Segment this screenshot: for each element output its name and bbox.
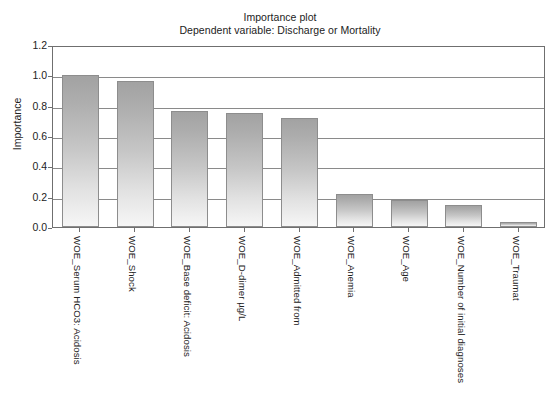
bar xyxy=(281,118,318,227)
y-axis-tick-labels: 0.00.20.40.60.81.01.2 xyxy=(0,0,50,402)
x-axis-tick-mark xyxy=(463,228,464,232)
x-axis-label-text: WOE_Traumat xyxy=(511,236,522,301)
y-axis-tick-label: 1.2 xyxy=(14,39,47,51)
bar xyxy=(117,81,154,227)
bar xyxy=(226,113,263,228)
chart-title: Importance plot xyxy=(0,11,560,24)
x-axis-tick-mark xyxy=(353,228,354,232)
y-axis-tick-label: 0.2 xyxy=(14,191,47,203)
bar xyxy=(500,222,537,227)
y-axis-tick-label: 0.8 xyxy=(14,100,47,112)
x-axis-label-text: WOE_D-dimer µg/L xyxy=(237,236,248,322)
x-axis-tick-mark xyxy=(244,228,245,232)
y-axis-tick-label: 0.0 xyxy=(14,221,47,233)
plot-area xyxy=(52,46,545,228)
x-axis-label-text: WOE_Serum HCO3: Acidosis xyxy=(72,236,83,365)
x-axis-label: WOE_Shock xyxy=(127,236,141,396)
y-axis-tick-label: 0.4 xyxy=(14,160,47,172)
bar xyxy=(171,111,208,227)
x-axis-label-text: WOE_Anemia xyxy=(346,236,357,298)
x-axis-label: WOE_Base deficit: Acidosis xyxy=(182,236,196,396)
x-axis-tick-mark xyxy=(189,228,190,232)
y-axis-tick-label: 1.0 xyxy=(14,69,47,81)
x-axis-label-text: WOE_Age xyxy=(401,236,412,282)
bar xyxy=(62,75,99,227)
x-axis-tick-mark xyxy=(134,228,135,232)
x-axis-label: WOE_Admitted from xyxy=(292,236,306,396)
y-axis-tick-label: 0.6 xyxy=(14,130,47,142)
chart-subtitle: Dependent variable: Discharge or Mortali… xyxy=(0,24,560,37)
x-axis-label: WOE_Number of initial diagnoses xyxy=(456,236,470,396)
bar xyxy=(445,205,482,227)
x-axis-tick-mark xyxy=(408,228,409,232)
x-axis-label-text: WOE_Shock xyxy=(127,236,138,292)
x-axis-label-text: WOE_Base deficit: Acidosis xyxy=(182,236,193,357)
x-axis-label: WOE_D-dimer µg/L xyxy=(237,236,251,396)
x-axis-label: WOE_Age xyxy=(401,236,415,396)
chart-title-block: Importance plot Dependent variable: Disc… xyxy=(0,11,560,37)
x-axis-label: WOE_Serum HCO3: Acidosis xyxy=(72,236,86,396)
gridline xyxy=(53,77,544,78)
y-axis-tick-mark xyxy=(48,228,52,229)
x-axis-label-text: WOE_Number of initial diagnoses xyxy=(456,236,467,383)
x-axis-label-text: WOE_Admitted from xyxy=(292,236,303,326)
x-axis-tick-mark xyxy=(518,228,519,232)
bar xyxy=(336,194,373,227)
x-axis-tick-mark xyxy=(79,228,80,232)
bar xyxy=(391,200,428,227)
x-axis-label: WOE_Traumat xyxy=(511,236,525,396)
x-axis-label: WOE_Anemia xyxy=(346,236,360,396)
x-axis-tick-mark xyxy=(299,228,300,232)
